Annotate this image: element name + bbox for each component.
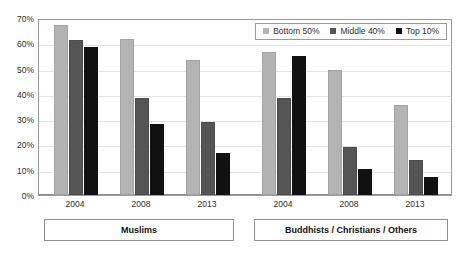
y-axis-tick-0: 0% [0, 192, 34, 201]
bars-layer [39, 20, 451, 195]
bar-group-bco-2004 [251, 20, 317, 195]
x-axis-tick-bco-2004: 2004 [274, 200, 293, 209]
bar-muslims-2008-middle40 [135, 98, 149, 195]
bar-muslims-2013-bottom50 [186, 60, 200, 195]
y-axis-tick-20: 20% [0, 141, 34, 150]
bar-muslims-2008-top10 [150, 124, 164, 195]
bar-bco-2008-bottom50 [328, 70, 342, 195]
y-axis-tick-50: 50% [0, 65, 34, 74]
bar-group-muslims-2013 [175, 20, 241, 195]
x-axis-tick-muslims-2008: 2008 [132, 200, 151, 209]
y-axis-tick-70: 70% [0, 15, 34, 24]
legend: Bottom 50% Middle 40% Top 10% [255, 23, 447, 40]
bar-bco-2013-middle40 [409, 160, 423, 195]
y-axis-tick-10: 10% [0, 166, 34, 175]
y-axis-tick-30: 30% [0, 116, 34, 125]
legend-item-middle-40: Middle 40% [330, 27, 384, 36]
x-axis-tick-bco-2008: 2008 [340, 200, 359, 209]
bar-muslims-2013-middle40 [201, 122, 215, 195]
bar-bco-2013-top10 [424, 177, 438, 195]
bar-bco-2004-top10 [292, 56, 306, 195]
legend-label-top-10: Top 10% [406, 27, 439, 36]
x-axis-tick-muslims-2004: 2004 [66, 200, 85, 209]
bar-bco-2008-top10 [358, 169, 372, 196]
y-axis-tick-40: 40% [0, 91, 34, 100]
bar-muslims-2004-bottom50 [54, 25, 68, 195]
legend-label-middle-40: Middle 40% [340, 27, 384, 36]
legend-label-bottom-50: Bottom 50% [273, 27, 319, 36]
legend-swatch-icon-bottom-50 [263, 28, 269, 34]
category-label-buddhists-christians-others: Buddhists / Christians / Others [254, 219, 448, 241]
bar-muslims-2008-bottom50 [120, 39, 134, 196]
x-axis-tick-bco-2013: 2013 [406, 200, 425, 209]
category-label-muslims: Muslims [44, 219, 234, 241]
y-axis-tick-60: 60% [0, 40, 34, 49]
bar-group-muslims-2008 [109, 20, 175, 195]
grouped-bar-chart: 70% 60% 50% 40% 30% 20% 10% 0% [0, 0, 469, 254]
bar-bco-2013-bottom50 [394, 105, 408, 195]
bar-bco-2004-bottom50 [262, 52, 276, 195]
bar-bco-2004-middle40 [277, 98, 291, 195]
bar-bco-2008-middle40 [343, 147, 357, 195]
bar-group-bco-2008 [317, 20, 383, 195]
x-axis-tick-muslims-2013: 2013 [198, 200, 217, 209]
legend-item-bottom-50: Bottom 50% [263, 27, 319, 36]
y-axis: 70% 60% 50% 40% 30% 20% 10% 0% [0, 0, 38, 196]
legend-swatch-icon-middle-40 [330, 28, 336, 34]
legend-swatch-icon-top-10 [396, 28, 402, 34]
bar-group-muslims-2004 [43, 20, 109, 195]
bar-muslims-2013-top10 [216, 153, 230, 195]
plot-area: Bottom 50% Middle 40% Top 10% [38, 19, 452, 196]
bar-muslims-2004-top10 [84, 47, 98, 195]
bar-group-bco-2013 [383, 20, 449, 195]
legend-item-top-10: Top 10% [396, 27, 439, 36]
bar-muslims-2004-middle40 [69, 40, 83, 195]
